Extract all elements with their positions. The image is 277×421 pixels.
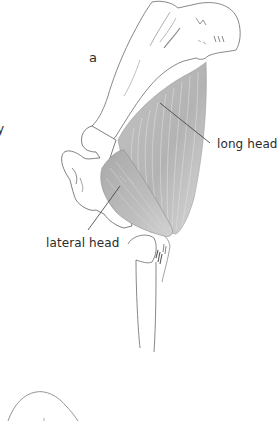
forearm-bone — [128, 232, 170, 352]
anatomy-illustration: a y long head lateral head — [0, 0, 277, 421]
partial-outline-next-figure — [8, 392, 78, 421]
lateral-head-label: lateral head — [46, 236, 119, 250]
triceps-drawing — [0, 0, 277, 421]
panel-label: a — [89, 51, 97, 65]
long-head-label: long head — [217, 137, 277, 151]
cut-off-text: y — [0, 122, 4, 136]
